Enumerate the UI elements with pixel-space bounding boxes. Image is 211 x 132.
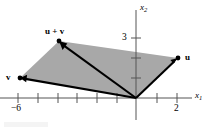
vector-label-v: v bbox=[6, 73, 11, 82]
x-tick-label-2: 2 bbox=[174, 104, 179, 114]
y-axis-label-subscript: 2 bbox=[144, 6, 147, 13]
parallelogram-fill bbox=[20, 41, 178, 98]
x-axis-label: x1 bbox=[195, 91, 202, 101]
y-axis-label: x2 bbox=[140, 3, 147, 13]
vector-label-u-plus-v: u + v bbox=[45, 27, 64, 36]
vector-addition-figure: u v u + v x2 x1 −6 2 3 bbox=[0, 0, 211, 132]
point-u-plus-v bbox=[57, 39, 62, 44]
plot-canvas bbox=[0, 0, 211, 132]
vector-label-u: u bbox=[185, 53, 190, 62]
x-axis-label-subscript: 1 bbox=[199, 94, 202, 101]
point-u bbox=[176, 56, 181, 61]
x-tick-label-minus6: −6 bbox=[11, 104, 21, 114]
point-v bbox=[18, 76, 23, 81]
caption-remnant bbox=[4, 122, 48, 127]
y-tick-label-3: 3 bbox=[122, 33, 127, 43]
